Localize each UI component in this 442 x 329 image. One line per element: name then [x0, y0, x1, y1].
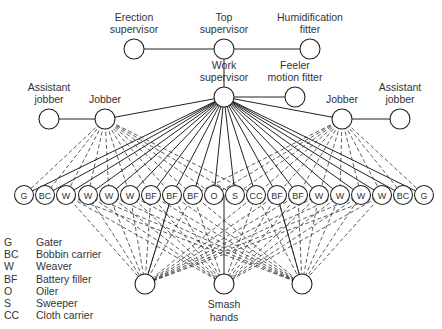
jobber-left-label: Jobber	[89, 93, 122, 105]
work-supervisor-node	[214, 87, 234, 107]
worker-code-label: W	[315, 191, 324, 201]
worker-code-label: G	[20, 191, 27, 201]
textile-mill-network-diagram: ErectionsupervisorTopsupervisorHumidific…	[0, 0, 442, 329]
legend-code: CC	[4, 309, 20, 321]
worker-code-label: BF	[292, 191, 304, 201]
legend-code: BF	[4, 273, 17, 285]
worker-code-label: CC	[250, 191, 263, 201]
assistant-jobber-right-node	[390, 109, 410, 129]
legend-name: Weaver	[36, 260, 72, 272]
legend-name: Battery filler	[36, 273, 92, 285]
work-supervisor-label: Work	[212, 59, 237, 71]
worker-code-label: G	[420, 191, 427, 201]
legend-name: Cloth carrier	[36, 309, 94, 321]
worker-code-label: BF	[145, 191, 157, 201]
worker-code-label: W	[84, 191, 93, 201]
jobber-right-node	[332, 109, 352, 129]
worker-code-label: W	[336, 191, 345, 201]
smash-hands-label: hands	[210, 311, 239, 323]
erection-supervisor-label: Erection	[115, 11, 154, 23]
legend-code: W	[4, 260, 14, 272]
worker-code-label: W	[126, 191, 135, 201]
legend-name: Gater	[36, 236, 63, 248]
erection-supervisor-node	[124, 39, 144, 59]
legend-code: S	[4, 297, 11, 309]
humidification-fitter-label: fitter	[300, 23, 321, 35]
worker-code-label: O	[210, 191, 217, 201]
jobber-left-node	[95, 109, 115, 129]
worker-code-label: S	[232, 191, 238, 201]
legend-name: Bobbin carrier	[36, 248, 102, 260]
work-supervisor-label: supervisor	[200, 71, 249, 83]
worker-code-label: BF	[187, 191, 199, 201]
feeler-motion-fitter-label: motion fitter	[268, 71, 323, 83]
legend-code: BC	[4, 248, 19, 260]
smash-right-node	[292, 274, 312, 294]
worker-code-label: BC	[39, 191, 52, 201]
top-supervisor-node	[214, 39, 234, 59]
worker-code-label: BF	[271, 191, 283, 201]
worker-code-label: BF	[166, 191, 178, 201]
smash-hands-label: Smash	[208, 298, 241, 310]
legend-name: Oiler	[36, 285, 59, 297]
assistant-jobber-left-label: jobber	[33, 93, 64, 105]
legend-code: G	[4, 236, 12, 248]
smash-center-node	[214, 274, 234, 294]
legend-name: Sweeper	[36, 297, 78, 309]
worker-code-label: W	[62, 191, 71, 201]
feeler-motion-fitter-node	[285, 87, 305, 107]
erection-supervisor-label: supervisor	[110, 23, 159, 35]
worker-code-label: W	[105, 191, 114, 201]
legend-code: O	[4, 285, 12, 297]
smash-left-node	[135, 274, 155, 294]
assistant-jobber-right-label: Assistant	[379, 81, 422, 93]
jobber-right-label: Jobber	[326, 93, 359, 105]
assistant-jobber-left-node	[39, 109, 59, 129]
worker-code-label: BC	[397, 191, 410, 201]
feeler-motion-fitter-label: Feeler	[280, 59, 310, 71]
legend: GGaterBCBobbin carrierWWeaverBFBattery f…	[4, 236, 102, 321]
top-supervisor-label: supervisor	[200, 23, 249, 35]
assistant-jobber-left-label: Assistant	[28, 81, 71, 93]
top-supervisor-label: Top	[216, 11, 233, 23]
worker-code-label: W	[357, 191, 366, 201]
worker-code-label: W	[378, 191, 387, 201]
humidification-fitter-node	[300, 39, 320, 59]
humidification-fitter-label: Humidification	[277, 11, 343, 23]
assistant-jobber-right-label: jobber	[384, 93, 415, 105]
